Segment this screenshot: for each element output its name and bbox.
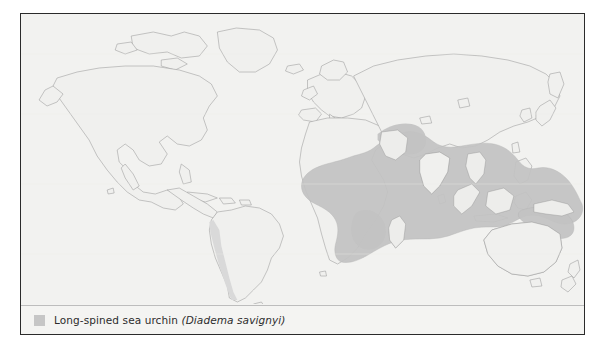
world-map-svg [21,14,584,304]
caribbean-islet [239,200,251,205]
legend-color-swatch [34,315,45,326]
map-legend: Long-spined sea urchin (Diadema savignyi… [21,305,584,334]
legend-common-name: Long-spined sea urchin [54,314,178,326]
legend-scientific-name: (Diadema savignyi) [181,314,285,326]
legend-label: Long-spined sea urchin (Diadema savignyi… [54,314,286,326]
distribution-map-figure: Long-spined sea urchin (Diadema savignyi… [20,13,585,335]
map-panel [21,14,584,304]
asia-lake-a [458,98,470,108]
legend-entry: Long-spined sea urchin (Diadema savignyi… [34,314,286,326]
atlantic-islet-a [320,271,327,276]
